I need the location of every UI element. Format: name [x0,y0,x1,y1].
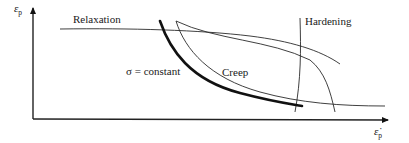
creep-curve [176,21,385,106]
transition-curve [176,21,335,112]
relaxation-curve [60,29,340,64]
creep-label: Creep [222,66,249,78]
constant-stress-label: σ = constant [126,65,180,77]
x-axis-label: ε̇p [374,125,382,140]
hardening-curve [295,18,300,112]
y-axis-label: εp [14,2,22,17]
x-axis [33,119,388,120]
hardening-label: Hardening [305,15,352,27]
diagram-canvas: εp ε̇p Relaxation Hardening Creep σ = co… [0,0,409,143]
relaxation-label: Relaxation [73,13,121,25]
